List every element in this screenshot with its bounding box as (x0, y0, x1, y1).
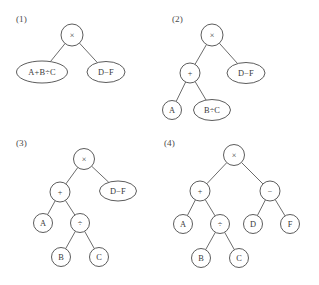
node-label: B (58, 253, 64, 262)
node-label: C (96, 253, 102, 262)
node-label: D (250, 220, 256, 229)
tree-node: A+B÷C (17, 61, 68, 83)
tree-node: × (224, 145, 245, 166)
tree-edge (187, 200, 195, 216)
tree-panel-1: ×A+B÷CD−F(1) (16, 14, 125, 83)
tree-panel-3: ×+D−FA÷BC(3) (16, 138, 137, 267)
tree-edge (195, 45, 206, 65)
node-label: A (180, 220, 186, 229)
tree-node: ÷ (71, 214, 90, 233)
node-label: A (169, 106, 175, 115)
tree-panel-4: ×+−A÷DFBC(4) (164, 138, 300, 268)
tree-node: − (260, 181, 280, 201)
tree-edge (206, 232, 216, 249)
tree-node: × (61, 24, 83, 46)
node-label: A+B÷C (28, 68, 56, 77)
node-label: + (188, 69, 193, 78)
tree-node: B÷C (194, 100, 231, 121)
tree-node: ÷ (211, 215, 230, 234)
tree-node: B (192, 249, 211, 268)
tree-edge (65, 200, 74, 215)
tree-node: F (281, 215, 300, 234)
node-label: ÷ (218, 220, 223, 229)
node-label: ÷ (78, 219, 83, 228)
tree-node: C (90, 248, 109, 267)
node-label: × (70, 31, 75, 40)
node-label: × (82, 155, 87, 164)
tree-node: D−F (227, 63, 265, 84)
tree-edge (241, 162, 263, 184)
expression-tree-figure: ×A+B÷CD−F(1)×+D−FAB÷C(2)×+D−FA÷BC(3)×+−A… (0, 0, 319, 285)
node-label: B÷C (204, 106, 220, 115)
tree-node: A (163, 101, 182, 120)
tree-edges (48, 166, 109, 249)
tree-node: + (190, 181, 210, 201)
tree-node: × (74, 149, 95, 170)
tree-edge (50, 44, 65, 62)
panel-caption: (2) (172, 14, 183, 24)
tree-edges (187, 162, 285, 249)
tree-node: D−F (100, 181, 137, 201)
node-label: × (210, 31, 215, 40)
node-label: D−F (98, 68, 114, 77)
tree-edge (195, 82, 206, 100)
tree-edge (176, 82, 185, 101)
tree-node: + (180, 63, 200, 83)
tree-edge (225, 232, 235, 249)
node-label: F (288, 220, 293, 229)
tree-edge (92, 166, 109, 182)
panel-caption: (4) (164, 138, 175, 148)
tree-edge (85, 231, 95, 248)
panel-caption: (1) (16, 14, 27, 24)
tree-edge (257, 200, 265, 216)
tree-node: D−F (87, 62, 125, 83)
tree-edge (207, 163, 227, 184)
node-label: × (232, 151, 237, 160)
node-label: + (58, 188, 63, 197)
expression-tree-canvas: ×A+B÷CD−F(1)×+D−FAB÷C(2)×+D−FA÷BC(3)×+−A… (0, 0, 319, 285)
tree-edge (66, 231, 76, 248)
node-label: B (198, 254, 204, 263)
tree-node: D (244, 215, 263, 234)
tree-edge (205, 200, 215, 216)
tree-panel-2: ×+D−FAB÷C(2) (163, 14, 266, 121)
tree-node: + (50, 182, 70, 202)
node-label: + (198, 187, 203, 196)
node-label: C (236, 254, 242, 263)
tree-node: B (52, 248, 71, 267)
tree-node: C (230, 249, 249, 268)
tree-node: A (174, 215, 193, 234)
tree-edge (79, 43, 97, 63)
tree-edge (219, 43, 237, 63)
tree-edge (275, 200, 285, 216)
node-label: D−F (110, 187, 126, 196)
panel-caption: (3) (16, 138, 27, 148)
node-label: A (40, 219, 46, 228)
tree-edge (66, 167, 78, 183)
tree-node: A (34, 214, 53, 233)
node-label: D−F (238, 69, 254, 78)
tree-edge (48, 201, 56, 215)
node-label: − (268, 187, 273, 196)
tree-node: × (201, 24, 223, 46)
